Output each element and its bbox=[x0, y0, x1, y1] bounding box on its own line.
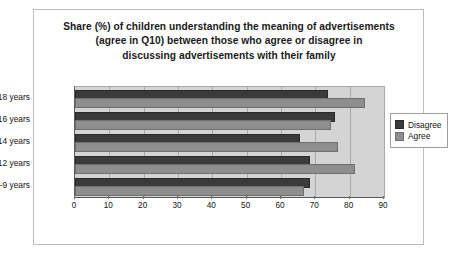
x-tick bbox=[314, 196, 315, 199]
bar-group bbox=[75, 109, 384, 131]
x-tick-label-40: 40 bbox=[207, 201, 216, 210]
x-tick bbox=[143, 196, 144, 199]
bar-agree-8-9-years bbox=[75, 186, 304, 196]
x-tick bbox=[74, 196, 75, 199]
category-label-8-9-years: 8-9 years bbox=[0, 180, 30, 190]
legend-swatch-disagree bbox=[395, 120, 404, 129]
bar-agree-17-18-years bbox=[75, 98, 365, 108]
x-axis: 0102030405060708090 bbox=[74, 196, 383, 216]
category-label-15-16-years: 15-16 years bbox=[0, 114, 30, 124]
x-tick-label-10: 10 bbox=[104, 201, 113, 210]
x-tick-label-90: 90 bbox=[378, 201, 387, 210]
legend-swatch-agree bbox=[395, 132, 404, 141]
x-tick bbox=[246, 196, 247, 199]
x-tick-label-70: 70 bbox=[310, 201, 319, 210]
x-tick bbox=[108, 196, 109, 199]
bar-group bbox=[75, 175, 384, 197]
x-tick bbox=[349, 196, 350, 199]
chart-title-line-2: (agree in Q10) between those who agree o… bbox=[48, 34, 410, 48]
x-tick bbox=[280, 196, 281, 199]
bar-agree-10-12-years bbox=[75, 164, 355, 174]
gridline bbox=[384, 87, 385, 197]
category-label-17-18-years: 17-18 years bbox=[0, 92, 30, 102]
x-tick-label-80: 80 bbox=[344, 201, 353, 210]
legend-item-agree: Agree bbox=[395, 131, 442, 141]
legend-label-agree: Agree bbox=[408, 131, 430, 141]
chart-frame: Share (%) of children understanding the … bbox=[33, 9, 424, 245]
x-tick-label-30: 30 bbox=[172, 201, 181, 210]
x-tick-label-60: 60 bbox=[275, 201, 284, 210]
x-tick bbox=[177, 196, 178, 199]
chart-legend: Disagree Agree bbox=[390, 113, 448, 148]
x-tick bbox=[383, 196, 384, 199]
legend-item-disagree: Disagree bbox=[395, 120, 442, 130]
category-label-13-14-years: 13-14 years bbox=[0, 136, 30, 146]
bar-group bbox=[75, 153, 384, 175]
y-axis-category-labels: 8-9 years10-12 years13-14 years15-16 yea… bbox=[0, 86, 30, 196]
plot-area bbox=[74, 86, 385, 198]
bar-agree-13-14-years bbox=[75, 142, 338, 152]
x-tick bbox=[211, 196, 212, 199]
chart-title-line-3: discussing advertisements with their fam… bbox=[48, 49, 410, 63]
x-tick-label-50: 50 bbox=[241, 201, 250, 210]
bar-group bbox=[75, 87, 384, 109]
bar-group bbox=[75, 131, 384, 153]
x-tick-label-20: 20 bbox=[138, 201, 147, 210]
category-label-10-12-years: 10-12 years bbox=[0, 158, 30, 168]
x-tick-label-0: 0 bbox=[72, 201, 77, 210]
chart-title: Share (%) of children understanding the … bbox=[48, 20, 410, 63]
chart-title-line-1: Share (%) of children understanding the … bbox=[48, 20, 410, 34]
bar-agree-15-16-years bbox=[75, 120, 331, 130]
legend-label-disagree: Disagree bbox=[408, 120, 442, 130]
